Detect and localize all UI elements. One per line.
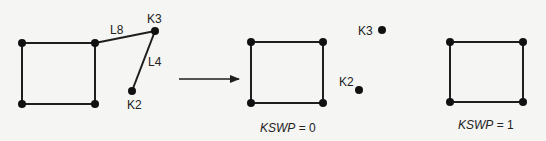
caption-value: = 1: [493, 118, 514, 132]
node-dot: [319, 38, 327, 46]
node-dot: [519, 98, 527, 106]
caption-kswp-0: KSWP = 0: [260, 121, 316, 135]
node-dot: [91, 100, 99, 108]
node-k3-dot: [151, 27, 159, 35]
node-dot: [519, 38, 527, 46]
label-k2: K2: [339, 75, 354, 89]
caption-kswp-1: KSWP = 1: [458, 118, 514, 132]
node-dot: [247, 99, 255, 107]
node-dot: [18, 39, 26, 47]
panel-before: L8 K3 L4 K2: [18, 12, 162, 112]
square-kswp-0: [251, 42, 323, 103]
caption-value: = 0: [295, 121, 316, 135]
node-k2-dot: [128, 87, 136, 95]
panel-kswp-0: K3 K2 KSWP = 0: [247, 24, 386, 135]
square-kswp-1: [450, 42, 523, 102]
caption-var: KSWP: [458, 118, 493, 132]
node-k2-dot: [355, 86, 363, 94]
label-l8: L8: [110, 23, 124, 37]
node-dot: [18, 100, 26, 108]
node-dot: [247, 38, 255, 46]
square-before: [22, 43, 95, 104]
diagram-svg: L8 K3 L4 K2 K3 K2 KSWP = 0: [0, 0, 546, 141]
label-k3: K3: [358, 24, 373, 38]
panel-kswp-1: KSWP = 1: [446, 38, 527, 132]
diagram-canvas: L8 K3 L4 K2 K3 K2 KSWP = 0: [0, 0, 546, 141]
caption-var: KSWP: [260, 121, 295, 135]
node-dot: [446, 98, 454, 106]
label-l4: L4: [148, 55, 162, 69]
node-k3-dot: [378, 26, 386, 34]
line-l8: [95, 31, 155, 43]
label-k3: K3: [147, 12, 162, 26]
node-dot: [319, 99, 327, 107]
node-dot: [446, 38, 454, 46]
label-k2: K2: [127, 98, 142, 112]
node-dot: [91, 39, 99, 47]
